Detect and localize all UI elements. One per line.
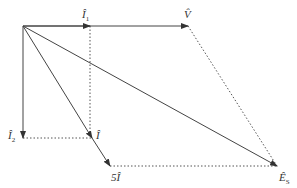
label-i2: Î2 <box>8 130 15 144</box>
vector-5i <box>92 138 110 166</box>
label-i1-sub: 1 <box>86 15 90 23</box>
label-i-text: Î <box>96 129 100 141</box>
vectors <box>23 26 277 166</box>
label-i2-sub: 2 <box>12 136 16 144</box>
label-5i: 5Î <box>111 172 120 183</box>
label-v-text: V̂ <box>184 8 191 20</box>
guide-v-to-es <box>188 26 277 166</box>
label-es-text: Ê <box>279 171 286 183</box>
vector-es <box>23 26 277 166</box>
phasor-diagram <box>0 0 297 188</box>
label-i: Î <box>96 130 100 141</box>
vector-i <box>23 26 92 138</box>
label-i1: Î1 <box>82 9 89 23</box>
label-es-sub: S <box>286 178 290 186</box>
label-es: ÊS <box>279 172 290 186</box>
label-5i-text: 5Î <box>111 171 120 183</box>
label-v: V̂ <box>184 9 191 20</box>
